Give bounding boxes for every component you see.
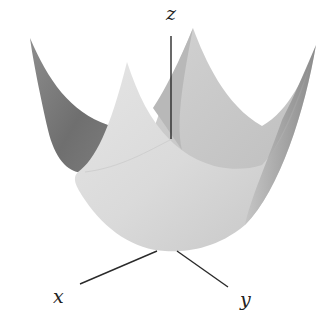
paraboloid-figure: z x y (0, 0, 329, 325)
x-axis (80, 251, 157, 284)
x-axis-label: x (53, 285, 64, 307)
y-axis-label: y (239, 288, 251, 310)
z-axis-label: z (165, 2, 177, 24)
y-axis (177, 251, 228, 287)
